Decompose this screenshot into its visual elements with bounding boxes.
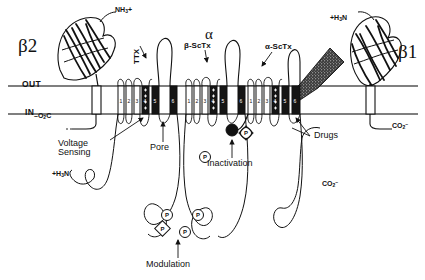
svg-text:P: P: [244, 130, 248, 136]
figure-canvas: 123 4 56 123 4 56 123 4 56 P P P P P P β…: [0, 0, 425, 280]
svg-text:2: 2: [196, 98, 199, 104]
inactivation-gate-ball: [226, 124, 238, 136]
beta1-subunit: [292, 12, 401, 129]
beta2-subunit: [58, 12, 116, 129]
svg-text:6: 6: [172, 98, 175, 104]
ttx-toxin-label: TTX: [133, 49, 141, 64]
svg-text:2: 2: [128, 98, 131, 104]
pore-label: Pore: [150, 143, 169, 152]
svg-text:2: 2: [258, 98, 261, 104]
beta1-c-terminus-label: CO2–: [392, 122, 408, 130]
svg-text:5: 5: [222, 98, 225, 104]
voltage-sensing-label: Voltage Sensing: [58, 139, 91, 157]
beta2-n-terminus-label: NH3+: [115, 6, 132, 14]
annotation-leaders: [66, 46, 310, 258]
svg-text:4: 4: [212, 98, 215, 104]
svg-text:4: 4: [144, 98, 147, 104]
alpha-n-terminus-label: +H3N: [52, 170, 69, 178]
alpha-c-terminus-label: CO2–: [322, 180, 338, 188]
beta-scorpion-toxin-label: β-ScTx: [184, 42, 211, 50]
svg-text:P: P: [196, 212, 200, 218]
beta2-c-terminus-label: –O2C: [34, 112, 51, 120]
svg-text:P: P: [183, 229, 187, 235]
svg-text:1: 1: [250, 98, 253, 104]
alpha-domain-II: [184, 40, 248, 238]
phospho-letter-glyphs: P P P P P P: [160, 130, 248, 235]
membrane-out-label: OUT: [22, 80, 41, 89]
svg-text:P: P: [165, 212, 169, 218]
svg-text:P: P: [160, 226, 164, 232]
svg-text:4: 4: [274, 98, 277, 104]
drugs-label: Drugs: [314, 131, 338, 140]
svg-text:3: 3: [136, 98, 139, 104]
svg-text:1: 1: [120, 98, 123, 104]
svg-text:3: 3: [266, 98, 269, 104]
svg-text:6: 6: [240, 98, 243, 104]
svg-text:3: 3: [204, 98, 207, 104]
beta1-subunit-label: β1: [398, 42, 417, 61]
voltage-sensing-line2: Sensing: [58, 147, 91, 157]
svg-text:1: 1: [188, 98, 191, 104]
modulation-label: Modulation: [146, 260, 190, 269]
beta2-subunit-label: β2: [18, 36, 37, 55]
inactivation-label: Inactivation: [207, 159, 253, 168]
beta1-n-terminus-label: +H3N: [330, 14, 347, 22]
svg-text:5: 5: [284, 98, 287, 104]
svg-text:6: 6: [294, 98, 297, 104]
membrane-in-label: IN: [25, 108, 34, 117]
alpha-subunit-label: α: [205, 27, 213, 42]
svg-text:5: 5: [154, 98, 157, 104]
alpha-scorpion-toxin-label: α-ScTx: [265, 43, 292, 51]
